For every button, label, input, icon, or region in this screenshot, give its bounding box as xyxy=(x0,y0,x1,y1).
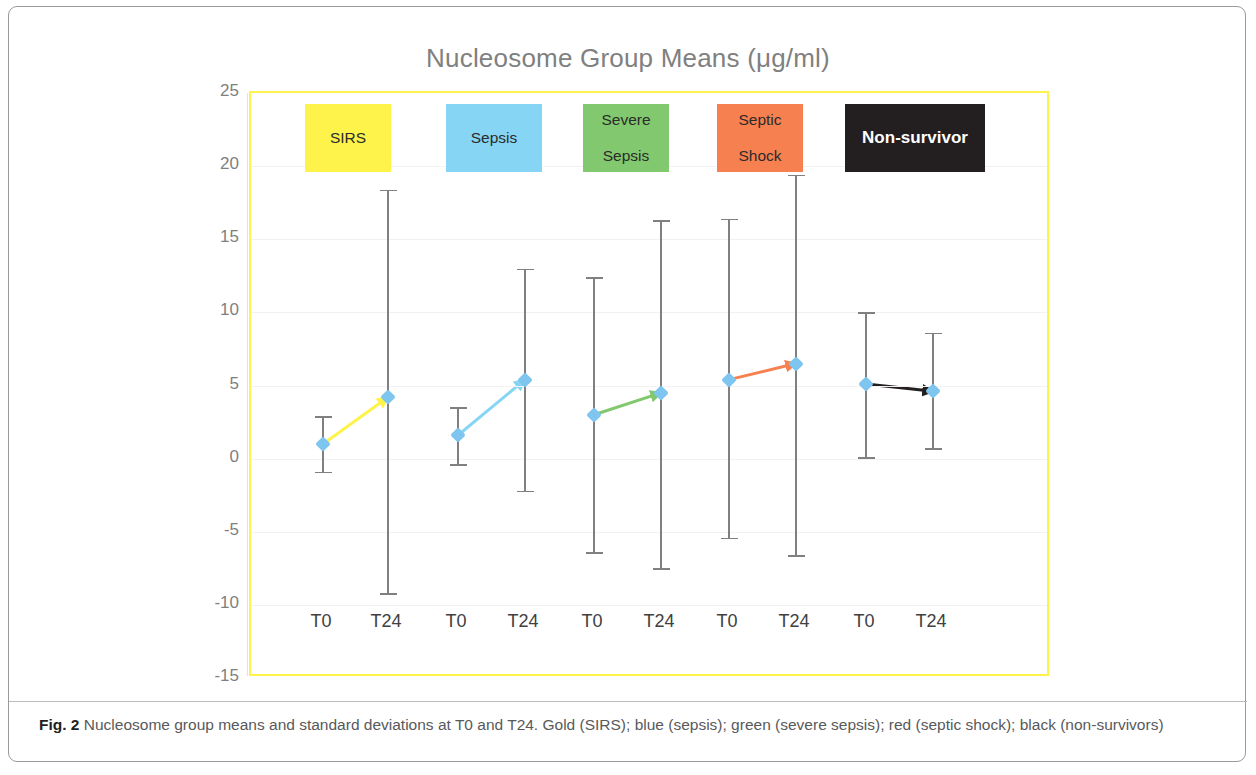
data-point-marker xyxy=(586,407,602,423)
y-axis-tick-label: 25 xyxy=(195,81,239,101)
x-axis-tick-label: T24 xyxy=(370,611,401,632)
gridline xyxy=(251,459,1047,460)
gridline xyxy=(251,312,1047,313)
gridline xyxy=(251,239,1047,240)
x-axis-tick-labels: T0T24T0T24T0T24T0T24T0T24 xyxy=(249,611,1049,641)
error-bar-cap-upper xyxy=(380,190,397,192)
chart-block: Nucleosome Group Means (μg/ml) 252015105… xyxy=(9,7,1247,697)
legend-label: Shock xyxy=(738,147,781,165)
figure-caption: Fig. 2 Nucleosome group means and standa… xyxy=(39,713,1219,737)
x-axis-tick-label: T0 xyxy=(310,611,331,632)
error-bar-cap-lower xyxy=(653,568,670,570)
error-bar-cap-lower xyxy=(450,464,467,466)
error-bar-cap-lower xyxy=(517,491,534,493)
legend-swatch-septic-shock: SepticShock xyxy=(717,104,803,172)
error-bar-cap-lower xyxy=(586,552,603,554)
legend-label: Non-survivor xyxy=(862,128,968,148)
y-axis-tick-label: 5 xyxy=(195,374,239,394)
trend-arrow-severe-sepsis xyxy=(594,393,661,415)
error-bar-cap-lower xyxy=(788,555,805,557)
y-axis-tick-label: -15 xyxy=(195,666,239,686)
legend-swatch-sepsis: Sepsis xyxy=(446,104,542,172)
chart-title: Nucleosome Group Means (μg/ml) xyxy=(9,43,1247,74)
legend-label: Sepsis xyxy=(603,147,650,165)
caption-divider xyxy=(9,701,1247,702)
data-point-marker xyxy=(380,389,396,405)
data-point-marker xyxy=(788,356,804,372)
trend-arrow-septic-shock xyxy=(729,364,796,380)
gridline xyxy=(251,605,1047,606)
caption-label: Fig. 2 xyxy=(39,716,79,733)
legend-label: Sepsis xyxy=(471,129,518,147)
error-bar-cap-lower xyxy=(380,593,397,595)
y-axis-line xyxy=(247,93,248,676)
gridline xyxy=(251,386,1047,387)
x-axis-tick-label: T0 xyxy=(581,611,602,632)
trend-arrow-sepsis xyxy=(458,380,525,436)
error-bar-cap-upper xyxy=(315,416,332,418)
legend-label: Severe xyxy=(601,111,650,129)
error-bar-cap-upper xyxy=(653,220,670,222)
x-axis-tick-label: T24 xyxy=(915,611,946,632)
x-axis-tick-label: T0 xyxy=(853,611,874,632)
y-axis-tick-label: 20 xyxy=(195,154,239,174)
error-bar-cap-upper xyxy=(925,333,942,335)
caption-text: Nucleosome group means and standard devi… xyxy=(79,716,1163,733)
error-bar-cap-lower xyxy=(925,448,942,450)
y-axis-tick-label: 0 xyxy=(195,447,239,467)
error-bar-cap-upper xyxy=(788,175,805,177)
legend-swatch-sirs: SIRS xyxy=(305,104,391,172)
y-axis-tick-label: -10 xyxy=(195,593,239,613)
x-axis-tick-label: T24 xyxy=(643,611,674,632)
error-bar-cap-lower xyxy=(858,457,875,459)
error-bar-cap-lower xyxy=(315,472,332,474)
y-axis-tick-label: -5 xyxy=(195,520,239,540)
data-point-marker xyxy=(315,436,331,452)
error-bar-cap-upper xyxy=(450,407,467,409)
trend-arrow-sirs xyxy=(323,397,388,444)
data-point-marker xyxy=(450,427,466,443)
legend-swatch-non-survivor: Non-survivor xyxy=(845,104,985,172)
x-axis-tick-label: T0 xyxy=(716,611,737,632)
legend-label: Septic xyxy=(738,111,781,129)
error-bar-cap-upper xyxy=(858,312,875,314)
x-axis-tick-label: T0 xyxy=(445,611,466,632)
data-point-marker xyxy=(653,385,669,401)
legend-swatch-severe-sepsis: SevereSepsis xyxy=(583,104,669,172)
error-bar-cap-upper xyxy=(721,219,738,221)
x-axis-tick-label: T24 xyxy=(778,611,809,632)
error-bar-cap-upper xyxy=(586,277,603,279)
y-axis-tick-label: 15 xyxy=(195,227,239,247)
y-axis-tick-label: 10 xyxy=(195,300,239,320)
plot-area xyxy=(249,91,1049,676)
error-bar-cap-upper xyxy=(517,269,534,271)
x-axis-tick-label: T24 xyxy=(507,611,538,632)
data-point-marker xyxy=(858,376,874,392)
figure-frame: Nucleosome Group Means (μg/ml) 252015105… xyxy=(8,6,1246,762)
gridline xyxy=(251,532,1047,533)
y-axis-tick-labels: 2520151050-5-10-15 xyxy=(189,91,239,676)
legend-label: SIRS xyxy=(330,129,366,147)
error-bar-cap-lower xyxy=(721,538,738,540)
